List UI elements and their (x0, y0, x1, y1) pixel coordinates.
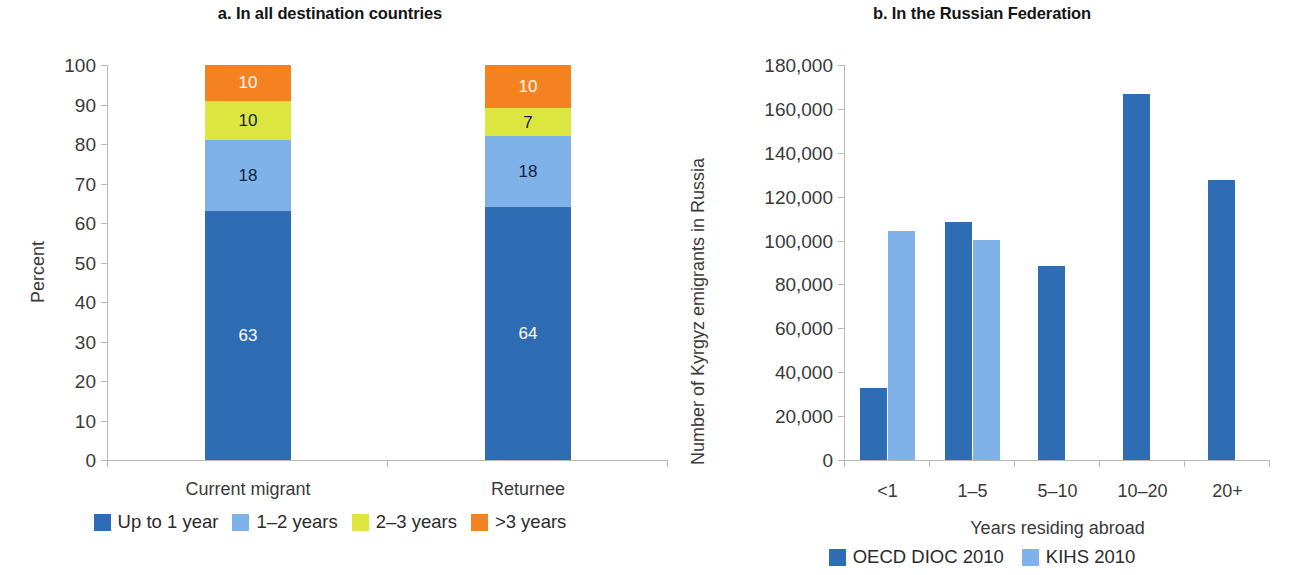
panel-b-y-axis-title: Number of Kyrgyz emigrants in Russia (688, 158, 709, 465)
stack-segment[interactable]: 63 (205, 211, 291, 460)
panel-a-title: a. In all destination countries (0, 4, 660, 23)
stack-segment-value[interactable]: 63 (239, 327, 258, 344)
legend-item[interactable]: 1–2 years (232, 513, 337, 532)
panel-b-x-tick-label[interactable]: 20+ (1148, 482, 1304, 500)
panel-a-all-destination-countries: a. In all destination countries Percent … (0, 0, 660, 575)
panel-a-y-tick-label[interactable]: 80 (50, 135, 96, 154)
panel-b-y-tick[interactable] (838, 328, 844, 329)
panel-b-y-tick[interactable] (838, 153, 844, 154)
panel-a-y-tick[interactable] (101, 144, 107, 145)
panel-a-legend: Up to 1 year1–2 years2–3 years>3 years (0, 513, 660, 532)
panel-b-y-tick-label[interactable]: 80,000 (723, 275, 833, 294)
panel-b-y-tick-label[interactable]: 40,000 (723, 363, 833, 382)
stacked-bar[interactable]: 10101863 (205, 65, 291, 460)
stack-segment[interactable]: 10 (485, 65, 571, 108)
stack-segment-value[interactable]: 18 (519, 163, 538, 180)
panel-b-y-tick[interactable] (838, 197, 844, 198)
panel-b-y-axis[interactable] (844, 65, 845, 460)
panel-b-x-tick[interactable] (929, 460, 930, 467)
panel-a-y-tick-label[interactable]: 100 (50, 56, 96, 75)
bar[interactable] (1208, 180, 1235, 460)
panel-a-y-tick-label[interactable]: 70 (50, 175, 96, 194)
panel-b-y-tick[interactable] (838, 109, 844, 110)
panel-a-y-tick-label[interactable]: 10 (50, 412, 96, 431)
panel-b-y-tick-label[interactable]: 120,000 (723, 188, 833, 207)
panel-b-y-tick-label[interactable]: 180,000 (723, 56, 833, 75)
panel-b-y-tick-label[interactable]: 20,000 (723, 407, 833, 426)
panel-a-y-tick[interactable] (101, 342, 107, 343)
panel-a-y-tick[interactable] (101, 263, 107, 264)
legend-label[interactable]: OECD DIOC 2010 (853, 548, 1004, 567)
panel-b-x-tick[interactable] (1269, 460, 1270, 467)
panel-a-y-tick[interactable] (101, 421, 107, 422)
bar-group[interactable] (845, 65, 1270, 460)
panel-a-x-tick-label[interactable]: Returnee (408, 480, 648, 498)
legend-swatch-icon[interactable] (829, 549, 846, 566)
stack-segment-value[interactable]: 64 (519, 325, 538, 342)
legend-swatch-icon[interactable] (352, 514, 369, 531)
panel-b-y-tick[interactable] (838, 372, 844, 373)
legend-swatch-icon[interactable] (94, 514, 111, 531)
panel-a-y-tick[interactable] (101, 223, 107, 224)
panel-a-x-tick-label[interactable]: Current migrant (128, 480, 368, 498)
stack-segment[interactable]: 64 (485, 207, 571, 460)
panel-a-y-tick[interactable] (101, 381, 107, 382)
panel-b-x-tick[interactable] (1184, 460, 1185, 467)
stack-segment-value[interactable]: 7 (523, 114, 532, 131)
panel-a-y-tick-label[interactable]: 40 (50, 293, 96, 312)
stack-segment-value[interactable]: 18 (239, 167, 258, 184)
legend-swatch-icon[interactable] (1022, 549, 1039, 566)
legend-item[interactable]: >3 years (471, 513, 566, 532)
panel-b-russian-federation: b. In the Russian Federation Number of K… (660, 0, 1304, 575)
stack-segment[interactable]: 18 (205, 140, 291, 211)
panel-b-y-tick-label[interactable]: 0 (723, 451, 833, 470)
panel-a-y-tick[interactable] (101, 184, 107, 185)
stack-segment[interactable]: 7 (485, 108, 571, 136)
legend-label[interactable]: 2–3 years (376, 513, 457, 532)
panel-a-y-tick-label[interactable]: 50 (50, 254, 96, 273)
panel-b-y-tick[interactable] (838, 416, 844, 417)
stacked-bar[interactable]: 1071864 (485, 65, 571, 460)
legend-label[interactable]: 1–2 years (256, 513, 337, 532)
panel-b-title: b. In the Russian Federation (660, 4, 1304, 23)
legend-swatch-icon[interactable] (471, 514, 488, 531)
stack-segment-value[interactable]: 10 (239, 112, 258, 129)
panel-a-y-tick-label[interactable]: 90 (50, 96, 96, 115)
panel-b-y-tick-label[interactable]: 160,000 (723, 100, 833, 119)
panel-a-y-tick-label[interactable]: 60 (50, 214, 96, 233)
legend-swatch-icon[interactable] (232, 514, 249, 531)
stack-segment[interactable]: 18 (485, 136, 571, 207)
panel-b-y-tick[interactable] (838, 284, 844, 285)
panel-b-y-tick-label[interactable]: 140,000 (723, 144, 833, 163)
legend-item[interactable]: 2–3 years (352, 513, 457, 532)
legend-item[interactable]: OECD DIOC 2010 (829, 548, 1004, 567)
panel-a-y-tick-label[interactable]: 20 (50, 372, 96, 391)
panel-a-y-tick-label[interactable]: 30 (50, 333, 96, 352)
panel-a-y-tick[interactable] (101, 65, 107, 66)
panel-a-x-tick[interactable] (387, 460, 388, 467)
panel-a-y-tick[interactable] (101, 105, 107, 106)
panel-b-x-axis[interactable] (844, 460, 1270, 461)
panel-b-plot-area (845, 65, 1270, 460)
legend-label[interactable]: >3 years (495, 513, 566, 532)
panel-b-y-tick-label[interactable]: 100,000 (723, 232, 833, 251)
stack-segment[interactable]: 10 (205, 101, 291, 141)
stack-segment-value[interactable]: 10 (519, 78, 538, 95)
panel-a-y-axis[interactable] (107, 65, 108, 460)
panel-a-x-tick[interactable] (107, 460, 108, 467)
panel-a-y-tick[interactable] (101, 302, 107, 303)
panel-b-x-tick[interactable] (1099, 460, 1100, 467)
stack-segment-value[interactable]: 10 (239, 74, 258, 91)
legend-item[interactable]: Up to 1 year (94, 513, 219, 532)
legend-item[interactable]: KIHS 2010 (1022, 548, 1135, 567)
panel-b-y-tick[interactable] (838, 65, 844, 66)
panel-b-x-tick[interactable] (844, 460, 845, 467)
panel-b-legend: OECD DIOC 2010KIHS 2010 (660, 548, 1304, 567)
panel-a-y-tick-label[interactable]: 0 (50, 451, 96, 470)
legend-label[interactable]: Up to 1 year (118, 513, 219, 532)
stack-segment[interactable]: 10 (205, 65, 291, 101)
panel-b-y-tick[interactable] (838, 241, 844, 242)
panel-b-y-tick-label[interactable]: 60,000 (723, 319, 833, 338)
panel-b-x-tick[interactable] (1014, 460, 1015, 467)
legend-label[interactable]: KIHS 2010 (1046, 548, 1135, 567)
